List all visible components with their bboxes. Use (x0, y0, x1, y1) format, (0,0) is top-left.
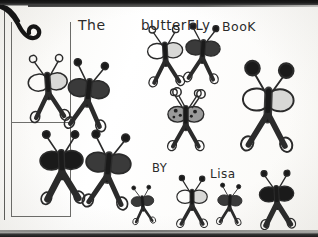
title-word-book: BooK (222, 19, 256, 34)
butterfly-right-large (231, 56, 305, 155)
stray-antenna-marks (168, 86, 214, 110)
butterfly-bottom-center (171, 171, 213, 229)
butterfly-bottom-small-right (212, 179, 248, 227)
title-word-the: The (78, 17, 106, 33)
bottom-scan-band (0, 232, 318, 237)
butterfly-bottom-right-dark (252, 164, 303, 232)
byline-by-label: BY (152, 161, 167, 175)
top-scan-band-thin (28, 5, 318, 7)
title-word-butterfly: bUtterFLy (141, 17, 210, 33)
ink-hook-swoosh-icon (0, 4, 46, 48)
byline-author-name: Lisa (210, 167, 236, 181)
butterfly-small-bottom-left (126, 180, 161, 225)
bottom-scan-band-thin (0, 230, 318, 232)
drawing-page: The bUtterFLy BooK BY Lisa (0, 0, 318, 237)
